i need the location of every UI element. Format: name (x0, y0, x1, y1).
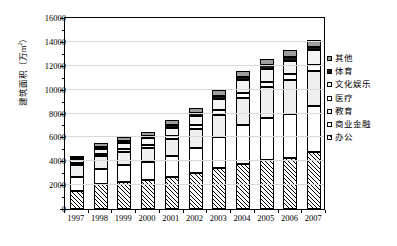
y-axis-minor-tick (62, 173, 64, 174)
x-axis-tick (64, 210, 65, 213)
bar-segment-其他 (236, 71, 250, 78)
gridline (65, 65, 324, 66)
bar-segment-办公 (94, 184, 108, 209)
legend-item-医疗[interactable]: 医疗 (327, 92, 397, 105)
y-axis-tick (60, 137, 64, 138)
y-axis-tick (60, 18, 64, 19)
bar-segment-办公 (236, 164, 250, 209)
y-axis-tick (60, 66, 64, 67)
legend-swatch-icon (327, 69, 332, 74)
legend-swatch-icon (327, 56, 332, 61)
bar-segment-其他 (117, 137, 131, 141)
y-axis-tick (60, 185, 64, 186)
y-axis-minor-tick (62, 78, 64, 79)
bar-segment-办公 (212, 168, 226, 209)
y-axis-minor-tick (62, 102, 64, 103)
bar-segment-教育 (189, 129, 203, 148)
gridline (65, 184, 324, 185)
legend-label: 文化娱乐 (335, 80, 371, 89)
gridline (65, 113, 324, 114)
legend-swatch-icon (327, 82, 332, 87)
bar-1999 (117, 137, 131, 209)
legend-swatch-icon (327, 96, 332, 101)
chart-legend: 其他体育文化娱乐医疗教育商业金融办公 (327, 52, 397, 144)
x-axis-tick (325, 210, 326, 213)
bar-segment-体育 (236, 77, 250, 80)
bar-segment-医疗 (260, 82, 274, 87)
legend-item-体育[interactable]: 体育 (327, 65, 397, 78)
bar-segment-文化娱乐 (141, 138, 155, 145)
bar-segment-教育 (283, 80, 297, 113)
bar-segment-医疗 (283, 74, 297, 80)
bar-segment-商业金融 (165, 156, 179, 177)
legend-label: 教育 (335, 107, 353, 116)
bar-segment-文化娱乐 (94, 149, 108, 154)
bar-segment-教育 (117, 152, 131, 165)
bar-segment-教育 (70, 165, 84, 177)
bar-2002 (189, 108, 203, 209)
bar-segment-办公 (189, 173, 203, 209)
bar-segment-文化娱乐 (212, 99, 226, 110)
bar-segment-体育 (260, 65, 274, 68)
y-axis-tick (60, 114, 64, 115)
legend-item-办公[interactable]: 办公 (327, 131, 397, 144)
bar-segment-其他 (70, 156, 84, 158)
bar-segment-文化娱乐 (307, 50, 321, 64)
legend-swatch-icon (327, 122, 332, 127)
legend-label: 办公 (335, 133, 353, 142)
bar-segment-医疗 (141, 145, 155, 148)
x-axis-tick-label: 2007 (298, 213, 328, 223)
y-axis-tick (60, 161, 64, 162)
bar-segment-商业金融 (141, 162, 155, 181)
legend-swatch-icon (327, 109, 332, 114)
bar-segment-文化娱乐 (283, 61, 297, 75)
bar-group (65, 18, 324, 209)
bar-segment-文化娱乐 (260, 69, 274, 82)
bar-segment-医疗 (236, 93, 250, 98)
bar-segment-体育 (212, 96, 226, 99)
bar-segment-其他 (212, 90, 226, 96)
bar-segment-医疗 (94, 154, 108, 156)
bar-2004 (236, 71, 250, 209)
legend-label: 商业金融 (335, 120, 371, 129)
bar-segment-体育 (94, 147, 108, 149)
legend-item-教育[interactable]: 教育 (327, 105, 397, 118)
gridline (65, 160, 324, 161)
legend-item-商业金融[interactable]: 商业金融 (327, 118, 397, 131)
legend-item-文化娱乐[interactable]: 文化娱乐 (327, 78, 397, 91)
bar-segment-体育 (283, 57, 297, 60)
bar-2001 (165, 120, 179, 209)
bar-2006 (283, 50, 297, 209)
bar-2003 (212, 90, 226, 209)
legend-label: 医疗 (335, 94, 353, 103)
bar-segment-其他 (165, 120, 179, 125)
bar-segment-文化娱乐 (117, 143, 131, 149)
legend-label: 其他 (335, 54, 353, 63)
gridline (65, 89, 324, 90)
bar-segment-体育 (165, 125, 179, 127)
stacked-bar-chart: 建筑面积（万m2） 其他体育文化娱乐医疗教育商业金融办公 02000400060… (0, 0, 397, 246)
bar-segment-教育 (94, 156, 108, 169)
bar-segment-体育 (117, 141, 131, 143)
y-axis-minor-tick (62, 30, 64, 31)
bar-segment-其他 (141, 132, 155, 136)
bar-segment-商业金融 (117, 165, 131, 182)
bar-segment-文化娱乐 (189, 116, 203, 126)
bar-segment-教育 (212, 115, 226, 138)
legend-item-其他[interactable]: 其他 (327, 52, 397, 65)
bar-1998 (94, 143, 108, 209)
bar-segment-商业金融 (212, 137, 226, 168)
y-axis-minor-tick (62, 54, 64, 55)
bar-segment-教育 (260, 87, 274, 118)
bar-1997 (70, 156, 84, 209)
gridline (65, 41, 324, 42)
y-axis-tick (60, 90, 64, 91)
bar-segment-商业金融 (236, 125, 250, 163)
bar-segment-医疗 (70, 163, 84, 165)
bar-segment-其他 (283, 50, 297, 57)
bar-segment-商业金融 (94, 169, 108, 184)
y-axis-minor-tick (62, 149, 64, 150)
bar-segment-文化娱乐 (236, 80, 250, 93)
bar-segment-办公 (165, 177, 179, 209)
legend-label: 体育 (335, 67, 353, 76)
